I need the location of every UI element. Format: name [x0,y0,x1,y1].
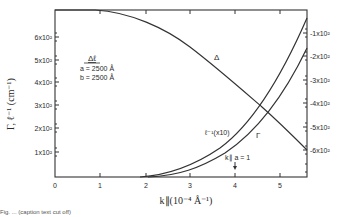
delta-curve-label: Δ [214,53,220,62]
y-axis-title: Γ, ℓ⁻¹ (cm⁻¹) [5,78,17,130]
legend-a: a = 2500 Å [80,64,114,72]
x-axis-title: k∥(10⁻⁴ Å⁻¹) [160,195,213,207]
y-left-tick-6: 6x10² [34,34,52,41]
plot-frame [55,10,307,177]
x-tick-5: 5 [278,182,282,189]
ell-inverse-curve [140,18,307,177]
ell-curve-label: ℓ⁻¹(x10) [204,129,230,137]
y-left-ticks [55,33,59,156]
y-left-tick-1: 1x10² [34,149,52,156]
y-left-tick-4: 4x10² [34,79,52,86]
y-right-tick-3: -3x10² [310,77,331,84]
x-tick-0: 0 [53,182,57,189]
y-left-tick-2: 2x10² [34,125,52,132]
gamma-curve-label: Γ [256,131,261,140]
chart-figure: 0 1 2 3 4 5 1x10² 2x10² 3x10² 4x10² 5x10… [0,0,347,217]
kpar-arrowhead [233,166,237,170]
figure-caption: Fig. ... (caption text cut off) [0,209,347,217]
x-tick-3: 3 [188,182,192,189]
y-right-tick-2: -2x10² [310,53,331,60]
x-ticks [100,10,280,177]
x-tick-1: 1 [98,182,102,189]
y-right-tick-1: -1x10² [310,30,331,37]
y-right-tick-6: -6x10² [310,147,331,154]
y-left-tick-5: 5x10² [34,57,52,64]
legend-b: b = 2500 Å [80,73,114,81]
x-tick-4: 4 [233,182,237,189]
y-right-tick-5: -5x10² [310,124,331,131]
y-left-tick-3: 3x10² [34,102,52,109]
legend-header: Δℓ [88,54,96,63]
x-tick-2: 2 [144,182,148,189]
y-right-tick-4: -4x10² [310,100,331,107]
kpar-note: k∥ a = 1 [225,154,250,162]
